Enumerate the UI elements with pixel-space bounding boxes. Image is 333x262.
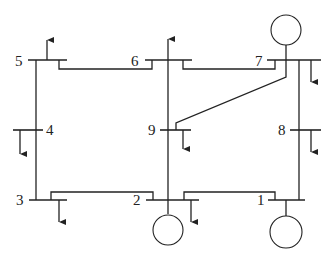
power-network-diagram: 5 6 7 4 9 8 3 2: [0, 0, 333, 262]
generator-icon: [270, 216, 302, 248]
generator-icon: [271, 15, 301, 45]
bus-4: 4: [13, 122, 54, 154]
bus-label: 1: [257, 192, 265, 208]
bus-label: 2: [133, 192, 141, 208]
branch-7-9: [176, 60, 286, 130]
generator-icon: [153, 215, 183, 245]
bus-9: 9: [148, 122, 191, 149]
bus-label: 9: [148, 122, 156, 138]
bus-3: 3: [16, 192, 67, 222]
bus-label: 4: [46, 122, 54, 138]
bus-1: 1: [257, 192, 305, 248]
bus-7: 7: [255, 15, 321, 82]
bus-2: 2: [133, 192, 199, 245]
bus-label: 3: [16, 192, 24, 208]
bus-label: 5: [15, 53, 23, 69]
bus-label: 7: [255, 53, 263, 69]
bus-label: 6: [131, 53, 139, 69]
bus-label: 8: [278, 122, 286, 138]
